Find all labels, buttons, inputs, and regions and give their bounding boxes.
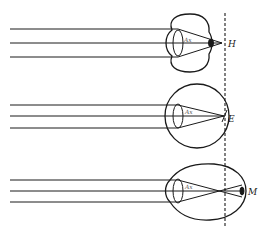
eye-emmetropia: [10, 84, 229, 148]
axis-label: Ax: [184, 108, 193, 115]
eye-hyperopia: [10, 14, 222, 72]
label-M: M: [247, 187, 258, 197]
axis-label: Ax: [183, 36, 192, 43]
refraction-diagram: Ax H Ax E Ax M: [0, 0, 264, 229]
eye-myopia: [10, 164, 246, 220]
eyeball-outline: [166, 164, 247, 220]
label-E: E: [227, 114, 235, 124]
label-H: H: [227, 39, 236, 49]
retina-spot: [240, 187, 244, 195]
retina-spot: [209, 39, 214, 47]
axis-label: Ax: [184, 183, 193, 190]
